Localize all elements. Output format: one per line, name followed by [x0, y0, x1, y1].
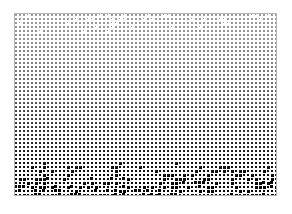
halftone-gradient-canvas — [14, 13, 277, 196]
page-root — [0, 0, 292, 214]
pattern-region — [14, 13, 277, 196]
